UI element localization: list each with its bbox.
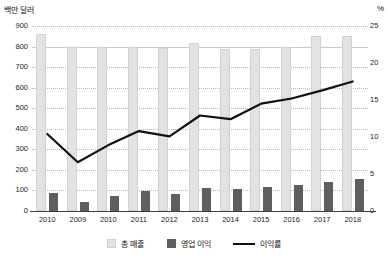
x-axis-tick-label: 2018 (333, 215, 373, 224)
y-axis-left-tick-label: 100 (4, 186, 28, 194)
revenue-swatch-icon (107, 239, 116, 248)
y-axis-right-tick-label: 20 (370, 59, 386, 67)
y-axis-left-tick-label: 200 (4, 166, 28, 174)
profit-rate-line (32, 26, 368, 211)
y-axis-left-tick-label: 600 (4, 84, 28, 92)
x-axis-baseline (30, 211, 376, 212)
profit-swatch-icon (167, 239, 176, 248)
legend-label-operating-profit: 영업 이익 (181, 238, 211, 249)
y-axis-left-tick-label: 400 (4, 125, 28, 133)
y-axis-left-title: 백만 달러 (4, 4, 34, 15)
y-axis-left-tick-label: 0 (4, 207, 28, 215)
chart-legend: 총 매출 영업 이익 이익률 (0, 238, 388, 249)
legend-label-revenue: 총 매출 (121, 238, 144, 249)
legend-label-profit-rate: 이익률 (260, 238, 281, 249)
y-axis-left-tick-label: 300 (4, 145, 28, 153)
y-axis-right-tick-label: 5 (370, 170, 386, 178)
y-axis-right-tick-label: 15 (370, 96, 386, 104)
y-axis-left-tick-label: 800 (4, 43, 28, 51)
y-axis-left-tick-label: 500 (4, 104, 28, 112)
legend-item-operating-profit: 영업 이익 (167, 238, 211, 249)
y-axis-right-tick-label: 25 (370, 22, 386, 30)
y-axis-right-title: % (377, 4, 384, 13)
y-axis-left-tick-label: 900 (4, 22, 28, 30)
y-axis-left-tick-label: 700 (4, 63, 28, 71)
rate-line-swatch-icon (233, 243, 255, 245)
y-axis-right-tick-label: 10 (370, 133, 386, 141)
legend-item-revenue: 총 매출 (107, 238, 144, 249)
profit-margin-chart: 백만 달러 % 0100200300400500600700800900 051… (0, 0, 388, 261)
legend-item-profit-rate: 이익률 (233, 238, 281, 249)
